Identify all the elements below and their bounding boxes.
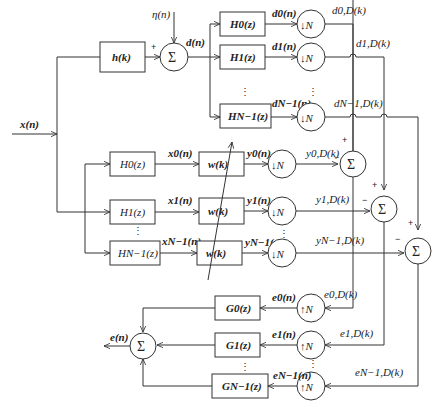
svg-text:d0(n): d0(n) — [272, 7, 296, 20]
desired-decimator-n1: ↓N — [297, 103, 325, 131]
svg-text:−: − — [362, 195, 367, 205]
svg-text:e1,D(k): e1,D(k) — [340, 327, 374, 340]
svg-text:↓N: ↓N — [271, 206, 285, 218]
noise-label: η(n) — [152, 8, 171, 21]
svg-text:e1(n): e1(n) — [272, 328, 296, 341]
svg-text:d1(n): d1(n) — [272, 40, 296, 53]
synthesis-filter-0: G0(z) — [215, 296, 260, 320]
svg-text:↓N: ↓N — [271, 248, 285, 260]
svg-text:+: + — [408, 218, 413, 228]
adaptive-filter-0: w(k) — [199, 152, 244, 176]
svg-text:−: − — [395, 234, 400, 244]
svg-text:↓N: ↓N — [271, 159, 285, 171]
input-analysis-filter-n1: HN−1(z) — [110, 241, 160, 265]
svg-text:⋮: ⋮ — [308, 86, 318, 97]
error-interpolator-0: ↑N — [297, 294, 325, 322]
svg-text:y0(n): y0(n) — [245, 147, 271, 160]
svg-text:Σ: Σ — [137, 339, 145, 354]
output-decimator-0: ↓N — [268, 150, 296, 178]
svg-text:y1(n): y1(n) — [245, 194, 271, 207]
svg-text:+: + — [151, 42, 156, 52]
svg-text:↑N: ↑N — [300, 303, 314, 315]
svg-text:eN−1(n): eN−1(n) — [273, 369, 311, 382]
desired-label: d(n) — [186, 36, 205, 49]
svg-text:w(k): w(k) — [208, 158, 228, 171]
svg-text:G1(z): G1(z) — [226, 339, 251, 352]
desired-analysis-filter-n1: HN−1(z) — [220, 104, 271, 128]
desired-sum-node: Σ — [160, 43, 188, 71]
svg-text:+: + — [372, 180, 377, 190]
unknown-system-block: h(k) — [100, 42, 145, 72]
svg-text:↑N: ↑N — [300, 381, 314, 393]
svg-text:xN−1(n): xN−1(n) — [161, 235, 201, 248]
input-label: x(n) — [19, 118, 39, 131]
svg-text:d0,D(k): d0,D(k) — [332, 4, 366, 17]
svg-text:⋮: ⋮ — [240, 86, 250, 97]
output-label: e(n) — [110, 331, 128, 344]
synthesis-filter-n1: GN−1(z) — [212, 374, 268, 398]
svg-text:eN−1,D(k): eN−1,D(k) — [355, 366, 403, 379]
svg-text:↑N: ↑N — [300, 340, 314, 352]
svg-text:GN−1(z): GN−1(z) — [222, 380, 262, 393]
output-decimator-n1: ↓N — [268, 239, 296, 267]
error-sum-n1: Σ — [405, 238, 431, 264]
synthesis-filter-1: G1(z) — [215, 333, 260, 357]
svg-text:yN−1,D(k): yN−1,D(k) — [315, 234, 364, 247]
svg-text:⋮: ⋮ — [240, 361, 250, 372]
svg-text:x0(n): x0(n) — [167, 147, 192, 160]
svg-text:HN−1(z): HN−1(z) — [227, 110, 268, 123]
desired-analysis-filter-1: H1(z) — [220, 45, 265, 69]
output-sum-node: Σ — [130, 333, 156, 359]
error-sum-1: Σ — [371, 196, 397, 222]
error-sum-0: Σ — [340, 151, 366, 177]
svg-text:Σ: Σ — [378, 202, 386, 217]
svg-text:d1,D(k): d1,D(k) — [356, 37, 390, 50]
svg-text:H0(z): H0(z) — [229, 18, 256, 31]
svg-text:e0,D(k): e0,D(k) — [324, 288, 358, 301]
svg-text:−: − — [334, 152, 339, 162]
svg-text:↓N: ↓N — [300, 112, 314, 124]
svg-text:Σ: Σ — [168, 50, 176, 65]
svg-text:w(k): w(k) — [206, 247, 226, 260]
input-analysis-filter-0: H0(z) — [110, 152, 155, 176]
svg-text:↓N: ↓N — [300, 19, 314, 31]
svg-text:+: + — [342, 135, 347, 145]
input-analysis-filter-1: H1(z) — [110, 200, 155, 224]
svg-text:G0(z): G0(z) — [226, 302, 251, 315]
output-decimator-1: ↓N — [268, 197, 296, 225]
svg-text:y1,D(k): y1,D(k) — [315, 193, 350, 206]
subband-diagram: x(n) h(k) + η(n) Σ d(n) H0(z) d0(n) ↓N d… — [0, 0, 436, 407]
svg-text:Σ: Σ — [347, 157, 355, 172]
svg-text:h(k): h(k) — [112, 51, 131, 64]
svg-text:Σ: Σ — [412, 244, 420, 259]
svg-text:⋮: ⋮ — [308, 358, 318, 369]
svg-text:↓N: ↓N — [300, 52, 314, 64]
input-signal: x(n) — [12, 57, 57, 212]
desired-decimator-0: ↓N — [297, 10, 325, 38]
svg-text:HN−1(z): HN−1(z) — [117, 247, 158, 260]
svg-text:H1(z): H1(z) — [119, 206, 145, 219]
svg-text:dN−1,D(k): dN−1,D(k) — [334, 97, 383, 110]
svg-text:⋮: ⋮ — [133, 225, 143, 236]
svg-text:x1(n): x1(n) — [167, 194, 192, 207]
desired-decimator-1: ↓N — [297, 43, 325, 71]
svg-text:H0(z): H0(z) — [119, 158, 145, 171]
adaptive-filter-n1: w(k) — [197, 241, 242, 265]
desired-analysis-filter-0: H0(z) — [220, 12, 265, 36]
svg-text:e0(n): e0(n) — [272, 291, 296, 304]
svg-text:H1(z): H1(z) — [229, 51, 256, 64]
svg-text:w(k): w(k) — [208, 205, 228, 218]
